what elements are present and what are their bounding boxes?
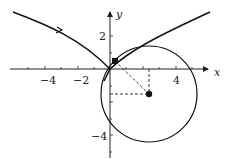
- point-on-curve-marker: [112, 58, 118, 64]
- diagram-canvas: −4 −2 4 2 −4 x y: [0, 0, 228, 159]
- x-tick-label-4: 4: [173, 74, 180, 87]
- y-tick-label-neg4: −4: [91, 130, 107, 143]
- y-tick-label-2: 2: [99, 30, 106, 43]
- dashed-guides: [110, 61, 149, 94]
- x-axis-label: x: [214, 66, 221, 79]
- cusp-curve: [13, 12, 210, 81]
- y-axis: [110, 12, 113, 158]
- center-point-marker: [146, 91, 152, 97]
- y-axis-label: y: [115, 8, 123, 21]
- x-tick-label-neg4: −4: [40, 74, 56, 87]
- x-tick-label-neg2: −2: [73, 74, 89, 87]
